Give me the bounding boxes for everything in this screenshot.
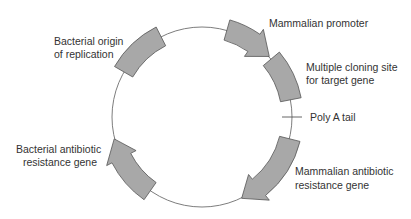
bacterial-antibiotic-resistance-arrow [107,139,156,200]
label-line: for target gene [306,74,374,86]
label-line: resistance gene [23,156,97,168]
label-multiple-cloning-site: Multiple cloning site for target gene [306,61,401,86]
multiple-cloning-site-segment [263,52,301,102]
label-line: Mammalian antibiotic [295,165,394,177]
label-line: Mammalian promoter [269,17,369,29]
label-bacterial-origin: Bacterial origin of replication [54,35,126,60]
mammalian-antibiotic-resistance-arrow [242,136,300,200]
label-line: Bacterial antibiotic [16,143,101,155]
label-line: of replication [54,48,114,60]
label-mammalian-promoter: Mammalian promoter [269,17,369,29]
plasmid-diagram: Bacterial origin of replication Mammalia… [0,0,411,219]
label-bacterial-antibiotic-resistance: Bacterial antibiotic resistance gene [16,143,104,168]
mammalian-promoter-arrow [224,20,269,57]
label-line: Bacterial origin [54,35,124,47]
label-poly-a-tail: Poly A tail [310,111,356,123]
label-line: resistance gene [295,179,369,191]
label-line: Multiple cloning site [306,61,398,73]
label-line: Poly A tail [310,111,356,123]
label-mammalian-antibiotic-resistance: Mammalian antibiotic resistance gene [295,165,397,191]
